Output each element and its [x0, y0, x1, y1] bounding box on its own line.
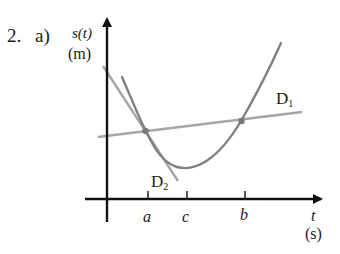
tick-label-a: a: [143, 209, 151, 225]
point-a: [142, 128, 148, 134]
tangent-line-d2: [103, 66, 178, 181]
x-axis-label: t: [311, 208, 315, 224]
exercise-number: 2.: [7, 26, 21, 45]
secant-label-d1: D1: [276, 90, 293, 109]
tangent-label-d2: D2: [151, 173, 168, 192]
y-axis-label: s(t): [72, 26, 92, 41]
secant-line-d1: [98, 112, 302, 137]
tick-label-b: b: [240, 207, 248, 223]
tick-label-c: c: [182, 209, 189, 225]
position-time-graph: [0, 0, 340, 254]
exercise-part: a): [35, 26, 50, 45]
x-axis-unit: (s): [305, 226, 322, 242]
position-curve: [122, 43, 281, 168]
point-b: [238, 118, 244, 124]
y-axis-unit: (m): [68, 46, 91, 62]
